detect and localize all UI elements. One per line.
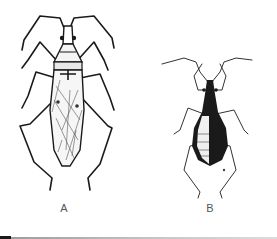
bottom-rule-mark [0,236,11,239]
insect-b-illustration [140,50,277,220]
panel-a-label: A [54,202,74,214]
panel-a: A [0,0,140,220]
insect-a-illustration [0,0,140,220]
panel-b: B [140,50,277,220]
panel-b-label: B [200,202,220,214]
figure: A [0,0,277,239]
bottom-rule [0,237,277,239]
